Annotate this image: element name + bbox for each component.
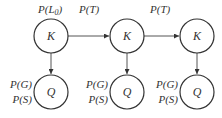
svg-text:Q: Q	[123, 85, 132, 99]
svg-text:K: K	[46, 29, 56, 43]
guess-label-3: P(G)	[155, 78, 178, 91]
slip-label-2: P(S)	[87, 93, 108, 106]
knowledge-node-1: K	[34, 19, 68, 53]
knowledge-node-3: K	[180, 19, 214, 53]
transition-label-2: P(T)	[149, 3, 171, 16]
guess-label-1: P(G)	[9, 78, 32, 91]
question-node-2: Q	[110, 75, 144, 109]
question-node-3: Q	[180, 75, 214, 109]
bkt-diagram: P(L0) P(T) P(T) K K K Q Q Q P(G) P(S) P(…	[0, 0, 222, 118]
svg-text:Q: Q	[47, 85, 56, 99]
question-node-1: Q	[34, 75, 68, 109]
slip-label-1: P(S)	[11, 93, 32, 106]
guess-label-2: P(G)	[85, 78, 108, 91]
svg-text:K: K	[192, 29, 202, 43]
transition-label-1: P(T)	[78, 3, 100, 16]
svg-text:Q: Q	[193, 85, 202, 99]
knowledge-node-2: K	[110, 19, 144, 53]
slip-label-3: P(S)	[157, 93, 178, 106]
prior-label: P(L0)	[37, 3, 63, 17]
svg-text:K: K	[122, 29, 132, 43]
